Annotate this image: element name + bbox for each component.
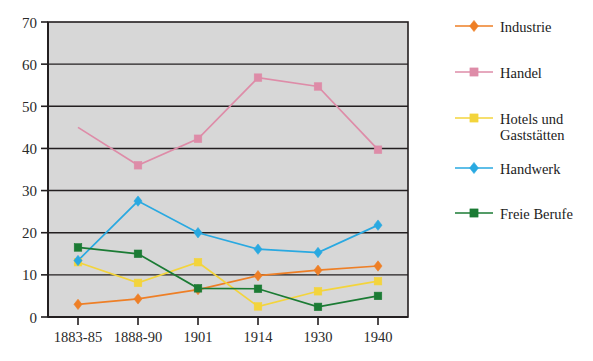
- legend-label: Freie Berufe: [500, 206, 573, 222]
- x-tick-label: 1901: [184, 329, 213, 345]
- y-tick-label: 70: [22, 15, 37, 31]
- legend-label: Handel: [500, 65, 542, 81]
- data-point: [134, 162, 142, 170]
- plot-background: [48, 22, 408, 317]
- data-point: [374, 146, 382, 154]
- chart-container: 010203040506070 1883-851888-901901191419…: [0, 0, 593, 361]
- legend-marker: [470, 20, 479, 31]
- data-point: [74, 244, 82, 252]
- data-point: [134, 250, 142, 258]
- data-point: [254, 285, 262, 293]
- y-tick-label: 10: [22, 267, 37, 283]
- legend-marker: [470, 68, 478, 76]
- y-axis: 010203040506070: [22, 15, 48, 326]
- y-tick-label: 40: [22, 141, 37, 157]
- data-point: [194, 135, 202, 143]
- data-point: [374, 292, 382, 300]
- legend-marker: [470, 209, 478, 217]
- data-point: [254, 74, 262, 82]
- y-tick-label: 20: [22, 225, 37, 241]
- legend-item[interactable]: Hotels undGaststätten: [455, 111, 565, 143]
- legend-item[interactable]: Industrie: [455, 19, 552, 35]
- legend-marker: [470, 162, 479, 173]
- legend-item[interactable]: Freie Berufe: [455, 206, 573, 222]
- data-point: [314, 83, 322, 91]
- chart-legend: IndustrieHandelHotels undGaststättenHand…: [455, 19, 573, 222]
- legend-label: Handwerk: [500, 161, 561, 177]
- y-tick-label: 30: [22, 183, 37, 199]
- legend-label: Hotels und: [500, 111, 564, 127]
- x-tick-label: 1940: [364, 329, 393, 345]
- data-point: [314, 288, 322, 296]
- data-point: [194, 285, 202, 293]
- data-point: [194, 258, 202, 266]
- y-tick-label: 50: [22, 99, 37, 115]
- y-tick-label: 0: [30, 310, 38, 326]
- legend-marker: [470, 114, 478, 122]
- legend-label-line2: Gaststätten: [500, 127, 565, 143]
- x-tick-label: 1930: [304, 329, 333, 345]
- x-tick-label: 1888-90: [114, 329, 162, 345]
- data-point: [314, 303, 322, 311]
- legend-item[interactable]: Handel: [455, 65, 542, 81]
- data-point: [374, 277, 382, 285]
- x-axis: 1883-851888-901901191419301940: [48, 317, 408, 345]
- x-tick-label: 1883-85: [54, 329, 102, 345]
- plot-area: [48, 22, 408, 317]
- x-tick-label: 1914: [244, 329, 274, 345]
- legend-label: Industrie: [500, 19, 552, 35]
- legend-item[interactable]: Handwerk: [455, 161, 561, 177]
- data-point: [134, 279, 142, 287]
- data-point: [254, 303, 262, 311]
- y-tick-label: 60: [22, 57, 37, 73]
- line-chart: 010203040506070 1883-851888-901901191419…: [0, 0, 593, 361]
